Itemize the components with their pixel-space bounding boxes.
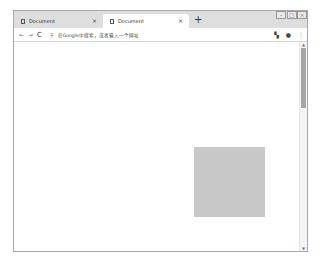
- page-content: ▲ ▼: [14, 42, 307, 251]
- tab-document-1[interactable]: Document ×: [14, 14, 103, 28]
- toolbar: ← → C ⚲ 在Google中搜索，或者输入一个网址 ▚ ● ⋮: [14, 28, 307, 42]
- maximize-button[interactable]: □: [287, 11, 297, 19]
- address-bar-placeholder[interactable]: 在Google中搜索，或者输入一个网址: [58, 32, 139, 38]
- close-tab-icon[interactable]: ×: [178, 18, 183, 24]
- extension-icon[interactable]: ▚: [274, 31, 279, 38]
- close-tab-icon[interactable]: ×: [92, 18, 97, 24]
- search-icon: ⚲: [50, 32, 54, 38]
- menu-icon[interactable]: ⋮: [298, 31, 304, 38]
- document-icon: [110, 19, 114, 24]
- reload-button[interactable]: C: [35, 31, 44, 39]
- tab-document-2[interactable]: Document ×: [103, 14, 189, 28]
- scroll-down-icon[interactable]: ▼: [300, 246, 307, 251]
- profile-icon[interactable]: ●: [286, 31, 291, 38]
- minimize-button[interactable]: –: [276, 11, 286, 19]
- forward-button[interactable]: →: [26, 31, 35, 38]
- tab-strip: Document × Document × + – □ ×: [14, 11, 307, 28]
- tab-title: Document: [29, 18, 55, 24]
- document-icon: [21, 19, 25, 24]
- new-tab-button[interactable]: +: [194, 14, 202, 26]
- scrollbar-thumb[interactable]: [301, 48, 306, 108]
- tab-title: Document: [118, 18, 144, 24]
- window-controls: – □ ×: [276, 11, 308, 19]
- address-bar[interactable]: ⚲ 在Google中搜索，或者输入一个网址: [50, 32, 139, 38]
- scroll-up-icon[interactable]: ▲: [300, 42, 307, 47]
- back-button[interactable]: ←: [17, 31, 26, 38]
- browser-window: Document × Document × + – □ × ← → C ⚲ 在G…: [13, 10, 308, 252]
- gray-square: [194, 147, 265, 217]
- vertical-scrollbar[interactable]: ▲ ▼: [299, 42, 307, 251]
- toolbar-actions: ▚ ● ⋮: [267, 28, 304, 41]
- close-window-button[interactable]: ×: [297, 11, 307, 19]
